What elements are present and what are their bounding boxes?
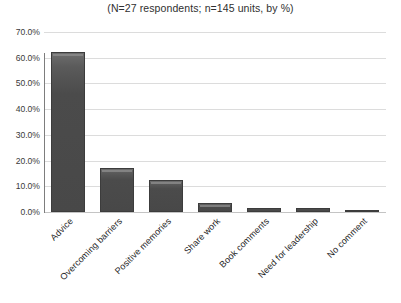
bars-layer [44,32,386,212]
bar[interactable] [296,208,330,212]
y-axis-tick-label: 30.0% [0,130,40,140]
chart-title: (N=27 respondents; n=145 units, by %) [0,2,401,14]
bar[interactable] [51,52,85,212]
y-axis-tick-label: 50.0% [0,78,40,88]
axis-baseline [44,212,386,213]
y-axis-tick-label: 60.0% [0,53,40,63]
x-axis-category-labels: AdviceOvercoming barriersPositive memori… [44,214,386,302]
bar-highlight [200,205,230,207]
bar-highlight [151,182,181,184]
x-axis-tick-label: Advice [49,216,76,243]
y-axis-tick-label: 40.0% [0,104,40,114]
bar[interactable] [345,210,379,212]
bar[interactable] [100,168,134,212]
y-axis-tick-label: 10.0% [0,181,40,191]
bar-chart: (N=27 respondents; n=145 units, by %) 70… [0,0,401,303]
y-axis-tick-label: 20.0% [0,156,40,166]
bar[interactable] [149,180,183,212]
bar-highlight [53,54,83,56]
x-axis-label-slot: Positive memories [142,214,191,302]
y-axis-tick-labels: 70.0%60.0%50.0%40.0%30.0%20.0%10.0%0.0% [0,32,40,212]
x-axis-label-slot: No comment [337,214,386,302]
y-axis-tick-label: 70.0% [0,27,40,37]
bar-highlight [102,170,132,172]
bar[interactable] [198,203,232,212]
bar[interactable] [247,208,281,212]
y-axis-tick-label: 0.0% [0,207,40,217]
